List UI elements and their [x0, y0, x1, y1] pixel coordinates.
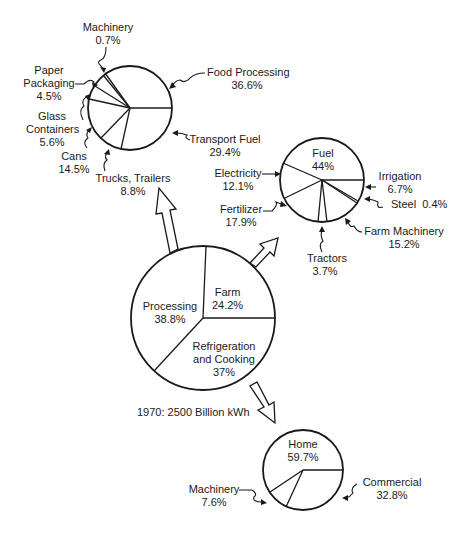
label-text: Packaging	[22, 77, 76, 90]
label-farm-pct: 24.2%	[200, 299, 255, 312]
label-pct: 12.1%	[214, 180, 262, 193]
label-text: Farm Machinery	[364, 225, 444, 238]
label-text: Fertilizer	[218, 203, 264, 216]
label-pct: 17.9%	[218, 216, 264, 229]
label-pct: 0.4%	[422, 198, 447, 210]
label-refrig-machinery: Machinery 7.6%	[188, 483, 240, 509]
label-text: Cans	[56, 150, 92, 163]
label-refrig-name2: and Cooking	[184, 353, 264, 366]
label-text: Tractors	[307, 252, 343, 265]
label-processing-name: Processing	[137, 300, 203, 313]
label-text: Steel	[391, 198, 416, 210]
arrow-to-refrig	[250, 382, 275, 423]
label-farm-fertilizer: Fertilizer 17.9%	[218, 203, 264, 229]
label-text: Fuel	[310, 147, 336, 160]
label-pct: 29.4%	[189, 146, 261, 159]
label-refrig-home: Home 59.7%	[285, 438, 321, 464]
label-proc-paper: Paper Packaging 4.5%	[22, 64, 76, 103]
label-pct: 59.7%	[285, 451, 321, 464]
label-farm-steel: Steel 0.4%	[391, 198, 447, 211]
label-text: Glass	[26, 110, 78, 123]
label-text: Electricity	[214, 167, 262, 180]
label-pct: 14.5%	[56, 163, 92, 176]
label-farm: Farm 24.2%	[200, 286, 255, 312]
label-text: Transport Fuel	[189, 133, 261, 146]
label-text: Commercial	[362, 476, 422, 489]
label-pct: 6.7%	[377, 183, 423, 196]
label-refrig-pct: 37%	[184, 366, 264, 379]
main-caption-text: 1970: 2500 Billion kWh	[137, 406, 250, 419]
processing-pie	[88, 66, 172, 150]
label-proc-trucks: Trucks, Trailers 8.8%	[93, 172, 173, 198]
label-farm-irrigation: Irrigation 6.7%	[377, 170, 423, 196]
label-text: Machinery	[78, 21, 138, 34]
label-pct: 8.8%	[93, 185, 173, 198]
label-pct: 7.6%	[188, 496, 240, 509]
label-text: Food Processing	[207, 66, 287, 79]
label-proc-glass: Glass Containers 5.6%	[26, 110, 78, 149]
main-caption: 1970: 2500 Billion kWh	[137, 406, 250, 419]
label-proc-machinery: Machinery 0.7%	[78, 21, 138, 47]
label-pct: 3.7%	[307, 265, 343, 278]
label-proc-food: Food Processing 36.6%	[207, 66, 287, 92]
label-refrig-commercial: Commercial 32.8%	[362, 476, 422, 502]
leader-lines-processing	[75, 47, 205, 171]
label-text: Trucks, Trailers	[93, 172, 173, 185]
label-farm-electricity: Electricity 12.1%	[214, 167, 262, 193]
label-text: Paper	[22, 64, 76, 77]
arrow-to-farm	[250, 238, 278, 267]
label-text: Irrigation	[377, 170, 423, 183]
label-pct: 36.6%	[207, 79, 287, 92]
label-text: Machinery	[188, 483, 240, 496]
label-proc-cans: Cans 14.5%	[56, 150, 92, 176]
label-proc-transport: Transport Fuel 29.4%	[189, 133, 261, 159]
label-pct: 4.5%	[22, 90, 76, 103]
label-pct: 32.8%	[362, 489, 422, 502]
label-text: Home	[285, 438, 321, 451]
label-refrig-name1: Refrigeration	[184, 340, 264, 353]
label-processing: Processing 38.8%	[137, 300, 203, 326]
label-text: Containers	[26, 123, 78, 136]
label-pct: 15.2%	[364, 238, 444, 251]
label-farm-fuel: Fuel 44%	[310, 147, 336, 173]
label-farm-name: Farm	[200, 286, 255, 299]
label-refrig: Refrigeration and Cooking 37%	[184, 340, 264, 379]
label-farm-tractors: Tractors 3.7%	[307, 252, 343, 278]
label-pct: 0.7%	[78, 34, 138, 47]
label-processing-pct: 38.8%	[137, 313, 203, 326]
label-pct: 44%	[310, 160, 336, 173]
label-farm-machinery: Farm Machinery 15.2%	[364, 225, 444, 251]
label-pct: 5.6%	[26, 136, 78, 149]
